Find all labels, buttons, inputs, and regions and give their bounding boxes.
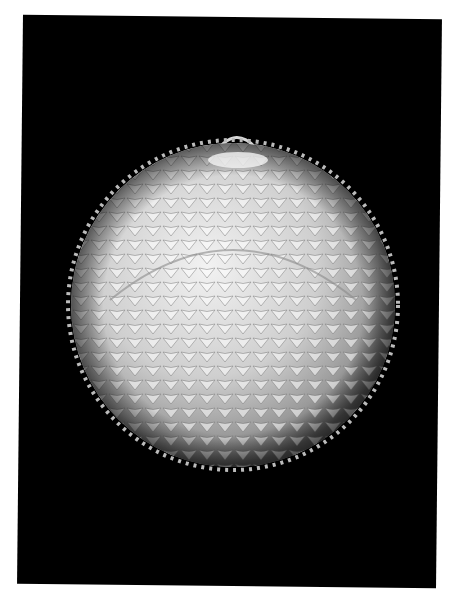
top-pole-points	[208, 152, 268, 168]
origami-sphere	[0, 0, 452, 596]
